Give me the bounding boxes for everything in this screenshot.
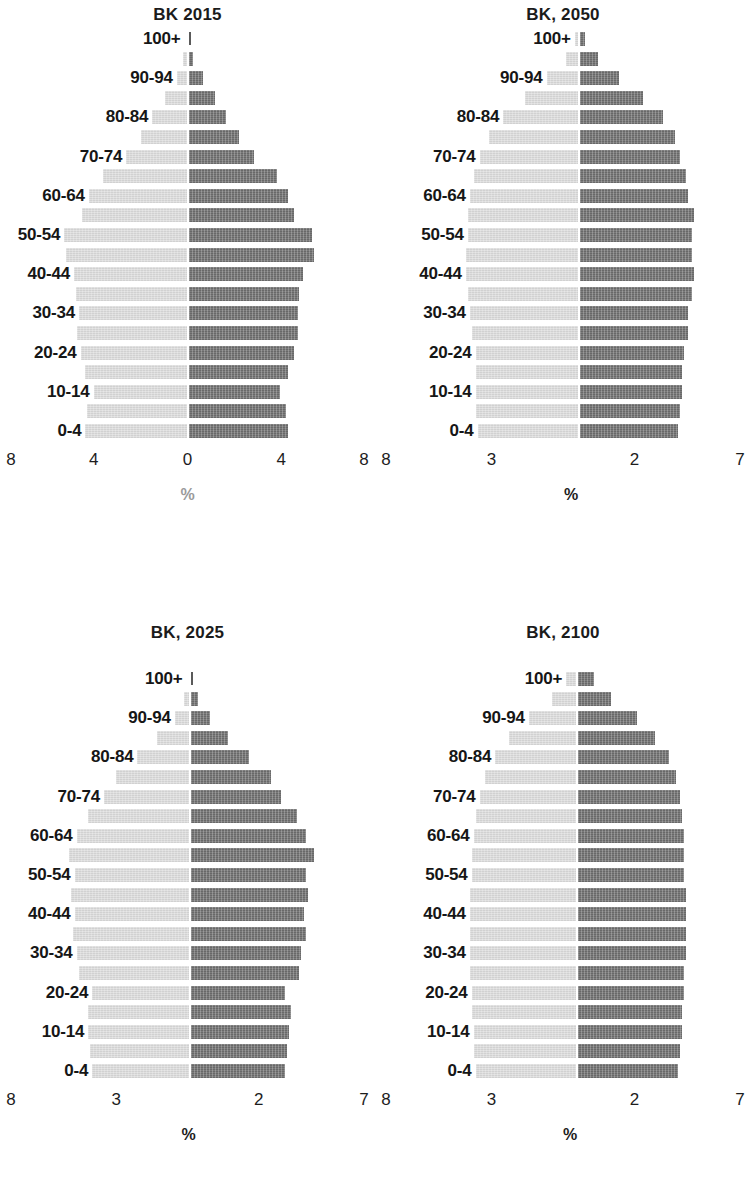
age-group-label: 50-54 — [18, 225, 60, 245]
bar-male — [470, 189, 578, 203]
pyramid-row — [447, 768, 707, 788]
pyramid-row: 80-84 — [449, 108, 709, 128]
chart-title: BK, 2025 — [0, 596, 375, 670]
bar-female — [578, 829, 684, 843]
bar-male — [474, 169, 578, 183]
age-group-label: 0-4 — [64, 1061, 88, 1081]
pyramid-row: 70-74 — [449, 148, 709, 168]
bar-male — [480, 150, 578, 164]
x-axis-tick: 3 — [487, 1090, 496, 1110]
age-group-label: 40-44 — [28, 264, 70, 284]
bar-male — [529, 711, 576, 725]
bar-female — [580, 365, 682, 379]
x-axis: 8327 — [375, 1090, 751, 1120]
x-axis-tick: 8 — [381, 1090, 390, 1110]
bar-male — [466, 267, 578, 281]
pyramid-row — [38, 50, 338, 70]
bar-female — [189, 248, 315, 262]
pyramid-row: 10-14 — [449, 383, 709, 403]
x-axis: 8327 — [375, 450, 751, 480]
pyramid-row — [449, 363, 709, 383]
bar-female — [578, 1044, 680, 1058]
bar-male — [470, 966, 576, 980]
bar-male — [85, 424, 186, 438]
bar-female — [191, 790, 281, 804]
bar-male — [75, 868, 189, 882]
bar-male — [74, 267, 187, 281]
bar-female — [191, 731, 228, 745]
age-group-label: 40-44 — [423, 904, 465, 924]
bar-female — [191, 868, 307, 882]
bar-female — [189, 71, 204, 85]
pyramid-row: 50-54 — [447, 866, 707, 886]
bar-male — [503, 110, 578, 124]
x-axis-tick: 2 — [254, 1090, 263, 1110]
pyramid-row: 30-34 — [447, 944, 707, 964]
age-group-label: 70-74 — [433, 787, 475, 807]
bar-female — [191, 809, 297, 823]
bar-female — [189, 287, 300, 301]
bar-female — [580, 287, 692, 301]
pyramid-row: 0-4 — [38, 422, 338, 442]
pyramid-row — [447, 807, 707, 827]
bar-male — [472, 1005, 576, 1019]
bar-female — [189, 385, 280, 399]
pyramid-row — [38, 363, 338, 383]
x-axis-tick: 4 — [277, 450, 286, 470]
bar-male — [468, 228, 578, 242]
age-group-label: 40-44 — [419, 264, 461, 284]
pyramid-row — [38, 89, 338, 109]
bar-female — [191, 770, 272, 784]
bar-female — [580, 91, 643, 105]
bar-female — [580, 267, 694, 281]
age-group-label: 10-14 — [429, 382, 471, 402]
pyramid-row: 40-44 — [449, 265, 709, 285]
bar-female — [578, 907, 686, 921]
bar-female — [191, 1064, 285, 1078]
pyramid-row: 20-24 — [447, 984, 707, 1004]
x-axis-tick: 7 — [735, 450, 744, 470]
pyramid-row: 80-84 — [52, 748, 327, 768]
pyramid-row: 90-94 — [52, 709, 327, 729]
bar-female — [578, 888, 686, 902]
pyramid-row — [449, 128, 709, 148]
pyramid-row: 80-84 — [38, 108, 338, 128]
plot-area: 100+90-9480-8470-7460-6450-5440-4430-342… — [52, 670, 327, 1082]
age-group-label: 10-14 — [427, 1022, 469, 1042]
bar-female — [578, 927, 686, 941]
bar-male — [88, 809, 188, 823]
pyramid-row — [52, 964, 327, 984]
chart-title: BK, 2050 — [375, 0, 751, 30]
x-axis-tick: 3 — [112, 1090, 121, 1110]
x-axis-tick: 8 — [6, 450, 15, 470]
age-group-label: 60-64 — [30, 826, 72, 846]
pyramid-row — [447, 925, 707, 945]
bar-female — [578, 1005, 682, 1019]
bar-female — [189, 346, 295, 360]
bar-female — [189, 130, 240, 144]
age-group-label: 30-34 — [30, 943, 72, 963]
axis-unit-label: % — [391, 486, 751, 504]
x-axis-tick: 8 — [381, 450, 390, 470]
pyramid-row: 60-64 — [38, 187, 338, 207]
pyramid-row: 30-34 — [52, 944, 327, 964]
bar-male — [472, 868, 576, 882]
pyramid-row — [449, 324, 709, 344]
bar-female — [189, 228, 313, 242]
bar-male — [476, 385, 578, 399]
age-group-label: 30-34 — [423, 303, 465, 323]
age-group-label: 90-94 — [130, 68, 172, 88]
pyramid-row: 20-24 — [52, 984, 327, 1004]
bar-male — [137, 750, 188, 764]
bar-female — [191, 986, 285, 1000]
bar-female — [189, 169, 277, 183]
bar-male — [79, 306, 187, 320]
bar-male — [69, 848, 189, 862]
bar-female — [578, 986, 684, 1000]
bar-male — [470, 888, 576, 902]
bar-male — [71, 888, 189, 902]
pyramid-row — [38, 324, 338, 344]
bar-female — [189, 404, 287, 418]
bar-female — [578, 731, 655, 745]
age-group-label: 60-64 — [423, 186, 465, 206]
